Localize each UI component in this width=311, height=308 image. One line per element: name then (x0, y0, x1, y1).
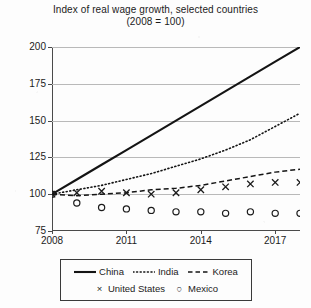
y-tick-label: 125 (16, 152, 46, 162)
legend-label: Mexico (188, 284, 218, 294)
legend-item-china[interactable]: China (74, 267, 124, 277)
solid-line-key (74, 267, 96, 277)
series-india (52, 113, 300, 194)
y-tick-label: 200 (16, 42, 46, 52)
legend-item-korea[interactable]: Korea (188, 267, 238, 277)
x-marker-key: × (94, 284, 105, 294)
series-layer (52, 47, 300, 231)
y-tick-label: 100 (16, 189, 46, 199)
chart-figure: Index of real wage growth, selected coun… (0, 0, 311, 308)
dashed-line-key (188, 267, 210, 277)
o-marker-key: ○ (174, 284, 185, 294)
legend-row: ×United States○Mexico (94, 282, 218, 296)
series-china (52, 47, 300, 194)
x-tick-label: 2011 (106, 236, 146, 246)
chart-title-block: Index of real wage growth, selected coun… (0, 4, 311, 28)
legend-label: United States (108, 284, 165, 294)
x-tick-label: 2017 (255, 236, 295, 246)
y-tick-label: 150 (16, 116, 46, 126)
x-tick-label: 2008 (32, 236, 72, 246)
legend-item-mexico[interactable]: ○Mexico (174, 284, 218, 294)
legend-label: China (99, 267, 124, 277)
chart-subtitle: (2008 = 100) (0, 16, 311, 28)
x-tick-label: 2014 (181, 236, 221, 246)
dotted-line-key (133, 267, 155, 277)
series-mexico (52, 191, 300, 216)
chart-title: Index of real wage growth, selected coun… (0, 4, 311, 16)
chart-legend: China India Korea×United States○Mexico (60, 259, 252, 301)
plot-area: 75100125150175200 2008201120142017 (52, 47, 300, 231)
y-tick-label: 175 (16, 79, 46, 89)
legend-label: Korea (213, 267, 238, 277)
legend-label: India (158, 267, 179, 277)
legend-row: China India Korea (74, 265, 238, 279)
legend-item-united-states[interactable]: ×United States (94, 284, 165, 294)
legend-item-india[interactable]: India (133, 267, 179, 277)
